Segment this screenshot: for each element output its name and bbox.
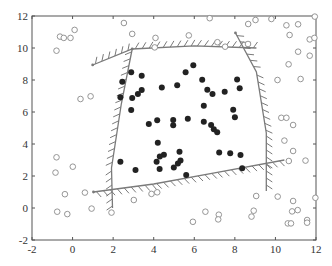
open-data-point	[88, 94, 94, 100]
open-data-point	[89, 206, 95, 212]
open-data-point	[275, 194, 281, 200]
filled-data-point	[201, 119, 207, 125]
boundary-endpoint	[131, 48, 134, 51]
hatch-mark	[250, 60, 257, 61]
open-data-point	[295, 49, 301, 55]
filled-data-point	[183, 69, 189, 75]
filled-data-point	[133, 167, 139, 173]
filled-data-point	[177, 149, 183, 155]
filled-data-point	[154, 117, 160, 123]
open-data-point	[215, 39, 221, 45]
open-data-point	[65, 211, 71, 217]
boundary-endpoint	[91, 64, 94, 67]
x-tick-label: 4	[151, 243, 157, 255]
open-data-point	[313, 195, 319, 201]
open-data-point	[154, 190, 160, 196]
boundary-endpoint	[234, 32, 237, 35]
filled-data-point	[119, 79, 125, 85]
boundary-endpoint	[92, 191, 95, 194]
open-data-point	[72, 27, 78, 33]
filled-data-point	[128, 107, 134, 113]
open-data-point	[253, 17, 259, 23]
scatter-chart: -2024681012 -2024681012	[0, 0, 332, 266]
filled-data-point	[178, 158, 184, 164]
filled-data-point	[146, 121, 152, 127]
open-data-point	[203, 209, 209, 215]
open-data-point	[290, 198, 296, 204]
y-tick-label: 6	[23, 106, 29, 118]
filled-data-point	[227, 150, 233, 156]
filled-data-point	[128, 69, 134, 75]
open-data-point	[287, 32, 293, 38]
open-data-point	[303, 158, 309, 164]
x-tick-label: -2	[27, 243, 36, 255]
open-data-point	[245, 21, 251, 27]
filled-data-point	[238, 152, 244, 158]
filled-data-point	[117, 159, 123, 165]
open-data-point	[186, 33, 192, 39]
open-data-point	[282, 138, 288, 144]
hatch-mark	[244, 48, 251, 49]
open-data-point	[70, 164, 76, 170]
filled-data-point	[159, 84, 165, 90]
hatch-mark	[253, 67, 260, 68]
open-data-point	[304, 220, 310, 226]
open-data-point	[249, 214, 255, 220]
open-data-point	[68, 35, 74, 41]
filled-data-point	[157, 166, 163, 172]
y-tick-label: -2	[19, 234, 28, 246]
filled-data-point	[117, 94, 123, 100]
hatch-mark	[247, 54, 254, 55]
x-tick-label: 6	[192, 243, 198, 255]
filled-data-point	[201, 103, 207, 109]
open-data-point	[54, 155, 60, 161]
filled-data-point	[139, 73, 145, 79]
x-tick-label: 0	[70, 243, 76, 255]
open-data-point	[298, 76, 304, 82]
open-data-point	[61, 35, 67, 41]
chart-background	[0, 0, 332, 266]
filled-data-point	[232, 114, 238, 120]
filled-data-point	[214, 129, 220, 135]
open-data-point	[54, 209, 60, 215]
open-data-point	[275, 77, 281, 83]
filled-data-point	[174, 82, 180, 88]
filled-data-point	[190, 62, 196, 68]
open-data-point	[295, 207, 301, 213]
filled-data-point	[185, 116, 191, 122]
x-tick-label: 2	[110, 243, 116, 255]
filled-data-point	[234, 76, 240, 82]
y-tick-label: 12	[17, 10, 28, 22]
open-data-point	[121, 20, 127, 26]
filled-data-point	[155, 140, 161, 146]
y-tick-label: 8	[23, 74, 29, 86]
open-data-point	[284, 115, 290, 121]
open-data-point	[312, 14, 318, 20]
open-data-point	[82, 190, 88, 196]
open-data-point	[53, 170, 59, 176]
open-data-point	[269, 16, 275, 22]
open-data-point	[78, 96, 84, 102]
open-data-point	[251, 208, 257, 214]
open-data-point	[152, 45, 158, 51]
open-data-point	[290, 122, 296, 128]
open-data-point	[286, 62, 292, 68]
y-tick-label: 4	[23, 138, 29, 150]
y-tick-label: 2	[23, 170, 29, 182]
open-data-point	[222, 44, 228, 50]
filled-data-point	[183, 172, 189, 178]
open-data-point	[307, 53, 313, 59]
open-data-point	[62, 191, 68, 197]
filled-data-point	[230, 107, 236, 113]
x-tick-label: 12	[311, 243, 322, 255]
open-data-point	[129, 31, 135, 37]
open-data-point	[253, 193, 259, 199]
open-data-point	[289, 209, 295, 215]
filled-data-point	[239, 165, 245, 171]
open-data-point	[312, 35, 318, 41]
filled-data-point	[199, 77, 205, 83]
filled-data-point	[216, 150, 222, 156]
y-tick-label: 10	[17, 42, 29, 54]
open-data-point	[109, 210, 115, 216]
y-tick-label: 0	[23, 202, 29, 214]
